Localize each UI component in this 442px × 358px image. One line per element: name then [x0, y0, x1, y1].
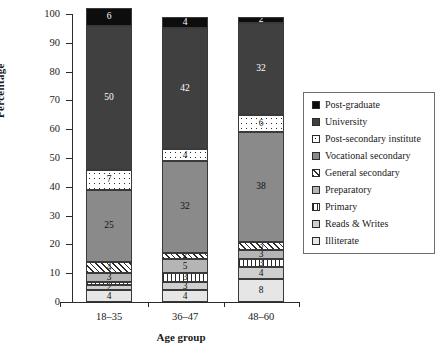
y-axis-title: Percentage: [0, 63, 6, 118]
legend-item-reads-writes[interactable]: Reads & Writes: [312, 219, 428, 229]
bar-segment: 3: [238, 259, 284, 268]
legend-swatch-icon: [312, 118, 320, 126]
legend-item-label: Post-graduate: [325, 100, 380, 110]
bar-segment: 8: [238, 279, 284, 302]
y-tick-label: 40: [30, 182, 60, 192]
x-tick-label: 18–35: [69, 311, 149, 322]
segment-value-label: 4: [183, 151, 188, 160]
legend-item-illiterate[interactable]: Illiterate: [312, 236, 428, 246]
x-tick: [148, 302, 149, 307]
bar-segment: 32: [238, 23, 284, 115]
bar-segment: 6: [238, 115, 284, 132]
legend-item-label: Illiterate: [325, 236, 359, 246]
segment-value-label: 4: [183, 292, 188, 301]
legend-swatch-icon: [312, 237, 320, 245]
x-tick: [60, 302, 61, 307]
segment-value-label: 3: [259, 250, 264, 259]
legend-item-general-secondary[interactable]: General secondary: [312, 168, 428, 178]
segment-value-label: 25: [104, 221, 114, 230]
y-tick-label: 0: [30, 297, 60, 307]
x-tick: [299, 302, 300, 307]
segment-value-label: 3: [107, 273, 112, 282]
y-tick-label: 50: [30, 153, 60, 163]
bar-segment: 4: [162, 149, 208, 161]
y-tick-label: 90: [30, 38, 60, 48]
legend-item-label: General secondary: [325, 168, 400, 178]
legend-swatch-icon: [312, 101, 320, 109]
segment-value-label: 1: [107, 282, 112, 285]
bar-segment: 42: [162, 28, 208, 149]
legend-item-post-graduate[interactable]: Post-graduate: [312, 100, 428, 110]
y-tick-label: 20: [30, 239, 60, 249]
bars-layer: 421342575064335232442484333386322: [72, 14, 290, 302]
bar-segment: 2: [238, 17, 284, 23]
x-axis-title: Age group: [72, 331, 290, 343]
segment-value-label: 32: [256, 64, 266, 73]
x-tick-label: 48–60: [221, 311, 301, 322]
bar-segment: 3: [162, 282, 208, 291]
legend-item-university[interactable]: University: [312, 117, 428, 127]
bar-segment: 2: [86, 285, 132, 291]
segment-value-label: 5: [183, 262, 188, 271]
y-tick-label: 10: [30, 268, 60, 278]
x-tick: [224, 302, 225, 307]
segment-value-label: 4: [107, 263, 112, 272]
bar-segment: 5: [162, 259, 208, 273]
legend-swatch-icon: [312, 169, 320, 177]
segment-value-label: 3: [183, 282, 188, 291]
bar-18-35: 42134257506: [86, 14, 132, 302]
segment-value-label: 2: [107, 285, 112, 291]
legend-item-label: Vocational secondary: [325, 151, 411, 161]
segment-value-label: 38: [256, 182, 266, 191]
x-tick-label: 36–47: [145, 311, 225, 322]
segment-value-label: 6: [107, 12, 112, 21]
segment-value-label: 6: [259, 119, 264, 128]
legend: Post-graduateUniversityPost-secondary in…: [303, 92, 435, 254]
y-tick-label: 60: [30, 124, 60, 134]
legend-swatch-icon: [312, 186, 320, 194]
segment-value-label: 4: [107, 292, 112, 301]
bar-segment: 2: [162, 253, 208, 259]
segment-value-label: 32: [180, 202, 190, 211]
bar-segment: 3: [162, 273, 208, 282]
segment-value-label: 4: [183, 18, 188, 27]
y-tick-label: 70: [30, 95, 60, 105]
bar-segment: 4: [238, 267, 284, 279]
y-tick-label: 100: [30, 9, 60, 19]
legend-swatch-icon: [312, 152, 320, 160]
segment-value-label: 3: [259, 242, 264, 251]
bar-segment: 7: [86, 170, 132, 190]
bar-segment: 32: [162, 161, 208, 253]
bar-36-47: 43352324424: [162, 14, 208, 302]
legend-item-vocational-secondary[interactable]: Vocational secondary: [312, 151, 428, 161]
y-tick-label: 80: [30, 67, 60, 77]
segment-value-label: 3: [259, 259, 264, 268]
legend-swatch-icon: [312, 203, 320, 211]
legend-item-primary[interactable]: Primary: [312, 202, 428, 212]
segment-value-label: 50: [104, 93, 114, 102]
segment-value-label: 4: [259, 269, 264, 278]
stacked-bar-chart: Percentage 0102030405060708090100 421342…: [0, 0, 442, 358]
bar-segment: 3: [238, 250, 284, 259]
legend-swatch-icon: [312, 135, 320, 143]
legend-item-label: Post-secondary institute: [325, 134, 421, 144]
x-axis-line: [60, 302, 300, 303]
bar-48-60: 84333386322: [238, 14, 284, 302]
segment-value-label: 7: [107, 175, 112, 184]
bar-segment: 4: [86, 262, 132, 274]
segment-value-label: 3: [183, 273, 188, 282]
bar-segment: 6: [86, 8, 132, 25]
segment-value-label: 8: [259, 286, 264, 295]
bar-segment: 3: [86, 273, 132, 282]
segment-value-label: 42: [180, 84, 190, 93]
bar-segment: 3: [238, 242, 284, 251]
segment-value-label: 2: [183, 253, 188, 259]
legend-item-preparatory[interactable]: Preparatory: [312, 185, 428, 195]
y-tick-label: 30: [30, 211, 60, 221]
bar-segment: 50: [86, 26, 132, 170]
legend-item-label: Primary: [325, 202, 357, 212]
segment-value-label: 2: [259, 17, 264, 23]
legend-item-post-secondary-institute[interactable]: Post-secondary institute: [312, 134, 428, 144]
bar-segment: 25: [86, 190, 132, 262]
bar-segment: 1: [86, 282, 132, 285]
